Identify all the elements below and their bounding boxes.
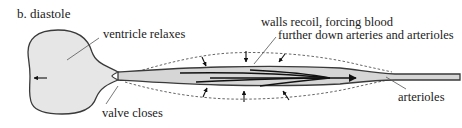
walls-label-line2: further down arteries and arterioles xyxy=(278,28,454,42)
walls-leader xyxy=(254,37,276,64)
recoil-arrow-top-3 xyxy=(279,54,285,62)
ventricle-label: ventricle relaxes xyxy=(103,27,185,41)
valve-leader xyxy=(106,86,118,104)
recoil-arrow-top-1 xyxy=(202,57,206,66)
valve-label: valve closes xyxy=(102,106,163,120)
walls-label-line1: walls recoil, forcing blood xyxy=(261,15,394,29)
diastole-diagram: b. diastole ventricle relaxes walls reco… xyxy=(0,0,462,128)
recoil-arrow-bottom-1 xyxy=(203,88,207,97)
ventricle xyxy=(28,30,118,114)
diagram-title: b. diastole xyxy=(17,6,71,21)
arterioles-label: arterioles xyxy=(398,90,445,104)
recoil-arrow-bottom-3 xyxy=(283,91,289,100)
